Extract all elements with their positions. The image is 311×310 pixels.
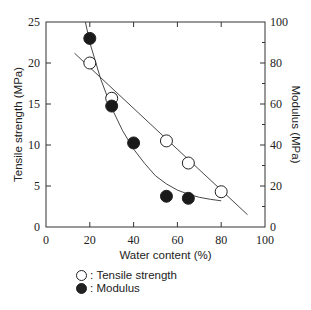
data-point-modulus bbox=[182, 192, 194, 204]
filled-circle-icon bbox=[76, 283, 87, 294]
legend-label: Tensile strength bbox=[96, 269, 177, 282]
legend-item-modulus: : Modulus bbox=[76, 282, 177, 295]
y2-tick-label: 60 bbox=[270, 97, 282, 111]
y2-tick-label: 100 bbox=[270, 15, 288, 29]
data-point-tensile-strength bbox=[215, 186, 227, 198]
data-point-modulus bbox=[106, 100, 118, 112]
y2-tick-label: 20 bbox=[270, 179, 282, 193]
x-tick-label: 60 bbox=[171, 233, 183, 247]
fit-line-modulus bbox=[85, 22, 221, 201]
open-circle-icon bbox=[76, 270, 87, 281]
legend-item-tensile-strength: : Tensile strength bbox=[76, 269, 177, 282]
data-point-tensile-strength bbox=[160, 135, 172, 147]
chart-plot: 0204060801000510152025020406080100Water … bbox=[0, 0, 311, 310]
y-tick-label: 20 bbox=[28, 56, 40, 70]
legend-label: Modulus bbox=[96, 282, 139, 295]
y-axis-label: Tensile strength (MPa) bbox=[12, 67, 24, 182]
x-tick-label: 20 bbox=[84, 233, 96, 247]
data-point-tensile-strength bbox=[182, 157, 194, 169]
y2-tick-label: 0 bbox=[270, 220, 276, 234]
data-point-modulus bbox=[128, 137, 140, 149]
legend-sep: : bbox=[90, 269, 93, 282]
y2-tick-label: 40 bbox=[270, 138, 282, 152]
x-tick-label: 40 bbox=[128, 233, 140, 247]
x-axis-label: Water content (%) bbox=[119, 249, 211, 261]
y-tick-label: 0 bbox=[34, 220, 40, 234]
y2-tick-label: 80 bbox=[270, 56, 282, 70]
y-tick-label: 15 bbox=[28, 97, 40, 111]
y-tick-label: 5 bbox=[34, 179, 40, 193]
plot-frame bbox=[46, 22, 265, 227]
x-tick-label: 80 bbox=[215, 233, 227, 247]
data-point-modulus bbox=[160, 190, 172, 202]
data-point-modulus bbox=[84, 32, 96, 44]
legend-sep: : bbox=[90, 282, 93, 295]
y2-axis-label: Modulus (MPa) bbox=[290, 86, 302, 164]
legend: : Tensile strength : Modulus bbox=[76, 269, 177, 295]
x-tick-label: 0 bbox=[43, 233, 49, 247]
data-point-tensile-strength bbox=[84, 57, 96, 69]
y-tick-label: 10 bbox=[28, 138, 40, 152]
x-tick-label: 100 bbox=[256, 233, 274, 247]
y-tick-label: 25 bbox=[28, 15, 40, 29]
